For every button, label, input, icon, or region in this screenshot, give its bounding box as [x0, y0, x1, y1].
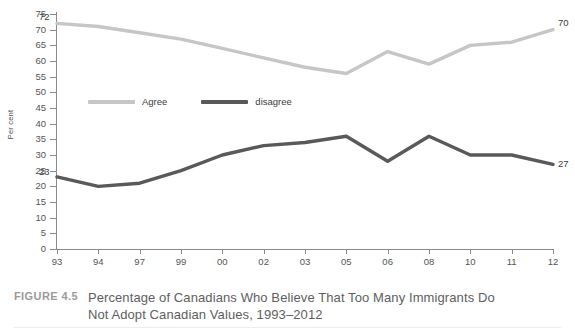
footer-divider: [14, 327, 561, 328]
chart-plot-area: Per cent 051015202530354045505560657075 …: [0, 0, 575, 275]
disagree-start-value: 23: [39, 166, 50, 177]
agree-end-value: 70: [558, 17, 569, 28]
figure-caption-text: Percentage of Canadians Who Believe That…: [88, 289, 508, 323]
legend-label-agree: Agree: [142, 96, 167, 107]
figure-caption: FIGURE 4.5 Percentage of Canadians Who B…: [14, 289, 565, 323]
legend-item-agree: Agree: [88, 96, 167, 107]
legend-swatch-disagree: [201, 100, 248, 104]
series-lines: [0, 0, 575, 275]
series-line-agree: [57, 23, 553, 73]
chart-legend: Agree disagree: [88, 96, 292, 107]
agree-start-value: 72: [39, 11, 50, 22]
legend-swatch-agree: [88, 100, 135, 104]
series-line-disagree: [57, 136, 553, 186]
figure-number: FIGURE 4.5: [14, 289, 78, 302]
legend-item-disagree: disagree: [201, 96, 291, 107]
legend-label-disagree: disagree: [255, 96, 291, 107]
figure-container: Per cent 051015202530354045505560657075 …: [0, 0, 575, 331]
disagree-end-value: 27: [558, 158, 569, 169]
